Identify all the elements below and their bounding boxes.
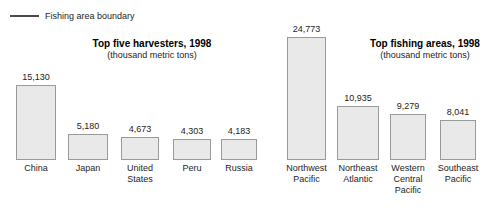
bar-category-label-line: Western (391, 163, 424, 174)
bar-category-label-line: Pacific (438, 174, 479, 185)
bar-category-label: Japan (76, 163, 101, 174)
bar-category-label: Russia (225, 163, 253, 174)
bar-rect (440, 120, 476, 160)
bar-rect (173, 139, 211, 160)
bar-rect (121, 137, 159, 160)
bar-value-label: 9,279 (397, 101, 420, 112)
bar-group: 10,935NortheastAtlantic (337, 0, 379, 210)
bar-value-label: 4,183 (228, 126, 251, 137)
bar-value-label: 4,673 (129, 124, 152, 135)
bar-rect (221, 139, 257, 160)
bar-category-label: SoutheastPacific (438, 163, 479, 185)
bar-rect (287, 37, 326, 160)
bar-category-label-line: Northeast (338, 163, 377, 174)
bar-category-label: UnitedStates (127, 163, 153, 185)
bar-category-label-line: States (127, 174, 153, 185)
bar-category-label: NortheastAtlantic (338, 163, 377, 185)
bar-category-label-line: Peru (182, 163, 201, 174)
chart-panel-top-fishing-areas: Top fishing areas, 1998 (thousand metric… (268, 0, 491, 210)
fishing-statistics-figure: Fishing area boundary Top five harvester… (0, 0, 491, 210)
bar-value-label: 8,041 (447, 107, 470, 118)
bar-group: 9,279WesternCentralPacific (390, 0, 426, 210)
bar-category-label: NorthwestPacific (286, 163, 327, 185)
bar-group: 4,183Russia (221, 0, 257, 210)
bar-category-label: China (24, 163, 48, 174)
bar-series: 15,130China5,180Japan4,673UnitedStates4,… (0, 0, 268, 210)
bar-group: 4,673UnitedStates (121, 0, 159, 210)
bar-category-label-line: Pacific (391, 185, 424, 196)
bar-group: 5,180Japan (68, 0, 108, 210)
bar-category-label-line: Russia (225, 163, 253, 174)
bar-category-label-line: China (24, 163, 48, 174)
bar-rect (68, 134, 108, 160)
bar-group: 15,130China (16, 0, 56, 210)
chart-panel-top-five-harvesters: Top five harvesters, 1998 (thousand metr… (0, 0, 268, 210)
bar-category-label: WesternCentralPacific (391, 163, 424, 196)
bar-group: 24,773NorthwestPacific (287, 0, 326, 210)
bar-value-label: 15,130 (22, 72, 50, 83)
bar-value-label: 5,180 (77, 121, 100, 132)
bar-category-label-line: Southeast (438, 163, 479, 174)
bar-series: 24,773NorthwestPacific10,935NortheastAtl… (268, 0, 491, 210)
bar-category-label-line: Pacific (286, 174, 327, 185)
bar-rect (16, 85, 56, 160)
bar-value-label: 4,303 (181, 126, 204, 137)
bar-rect (390, 114, 426, 160)
bar-category-label-line: Japan (76, 163, 101, 174)
bar-rect (337, 106, 379, 160)
bar-category-label-line: Atlantic (338, 174, 377, 185)
bar-value-label: 24,773 (293, 24, 321, 35)
bar-value-label: 10,935 (344, 93, 372, 104)
bar-group: 8,041SoutheastPacific (440, 0, 476, 210)
bar-category-label-line: Northwest (286, 163, 327, 174)
bar-category-label-line: Central (391, 174, 424, 185)
bar-category-label-line: United (127, 163, 153, 174)
bar-group: 4,303Peru (173, 0, 211, 210)
bar-category-label: Peru (182, 163, 201, 174)
